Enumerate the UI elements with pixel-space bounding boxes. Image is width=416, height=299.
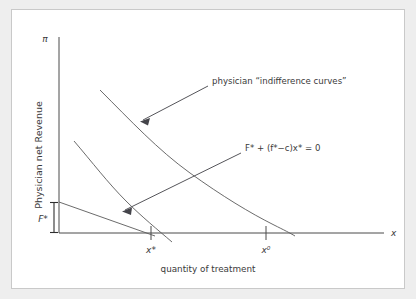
economics-diagram: π Physician net Revenue x x* x⁰ bbox=[12, 10, 406, 290]
figure-panel: π Physician net Revenue x x* x⁰ bbox=[11, 9, 405, 289]
indifference-curve-lower bbox=[74, 141, 172, 242]
diagram-canvas: π Physician net Revenue x x* x⁰ bbox=[12, 10, 406, 290]
equation-label: F* + (f*−c)x* = 0 bbox=[245, 143, 320, 153]
x-axis-symbol: x bbox=[390, 228, 397, 238]
f-star-label: F* bbox=[38, 214, 48, 224]
equation-leader-line bbox=[125, 153, 241, 210]
y-axis-label: Physician net Revenue bbox=[33, 101, 44, 209]
x-axis-caption: quantity of treatment bbox=[161, 264, 256, 274]
indifference-annotation: physician “indifference curves” bbox=[140, 76, 347, 126]
x-tick-label-xzero: x⁰ bbox=[261, 245, 271, 255]
zero-profit-line bbox=[59, 202, 155, 236]
y-axis-symbol: π bbox=[42, 34, 48, 44]
indifference-curves-label: physician “indifference curves” bbox=[212, 76, 347, 86]
indifference-leader-line bbox=[143, 86, 208, 120]
x-tick-label-xstar: x* bbox=[145, 245, 156, 255]
equation-annotation: F* + (f*−c)x* = 0 bbox=[122, 143, 320, 215]
page-root: π Physician net Revenue x x* x⁰ bbox=[0, 0, 416, 299]
